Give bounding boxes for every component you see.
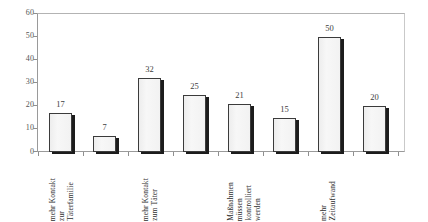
bar-value-7: 20 [370, 93, 379, 102]
y-axis: 60 50 40 30 20 10 0 [0, 0, 34, 222]
bar-body-2[interactable] [138, 78, 161, 152]
bar-body-5[interactable] [273, 118, 296, 153]
bar-body-0[interactable] [49, 113, 72, 152]
x-axis-label-4-line-1: müssen [235, 198, 244, 221]
bar-value-2: 32 [145, 65, 154, 74]
bar-value-5: 15 [280, 105, 289, 114]
bar-6: 50 [318, 14, 341, 152]
x-axis-label-6-line-0: mehr [319, 205, 328, 221]
x-tick-mark-3 [173, 152, 174, 156]
bar-5: 15 [273, 14, 296, 152]
bar-body-4[interactable] [228, 104, 251, 152]
bar-3: 25 [183, 14, 206, 152]
y-tick-label-0: 0 [4, 148, 34, 156]
x-axis-label-4-line-3: werden [253, 198, 262, 221]
x-axis-label-4: Maßnahmen müssen kontrolliert werden [224, 157, 264, 221]
x-axis-label-2-line-1: zum Täter [150, 189, 159, 221]
plot-area: 17 7 32 25 21 15 [38, 14, 404, 152]
bar-body-3[interactable] [183, 95, 206, 153]
x-axis-label-0-line-0: mehr Kontakt [48, 178, 57, 221]
bar-value-1: 7 [102, 123, 106, 132]
x-tick-mark-2 [128, 152, 129, 156]
x-axis-label-0: mehr Kontakt zur Täterfamilie [46, 157, 76, 221]
y-tick-label-20: 20 [4, 101, 34, 109]
x-axis-label-0-line-2: Täterfamilie [66, 182, 75, 221]
bar-chart: 60 50 40 30 20 10 0 17 7 32 [0, 0, 428, 222]
y-tick-label-10: 10 [4, 124, 34, 132]
x-tick-mark-4 [218, 152, 219, 156]
x-axis-label-4-line-2: kontrolliert [244, 185, 253, 221]
x-tick-mark-6 [308, 152, 309, 156]
x-tick-mark-7 [353, 152, 354, 156]
x-axis-label-0-line-1: zur [57, 211, 66, 221]
y-tick-label-40: 40 [4, 55, 34, 63]
x-tick-mark-1 [83, 152, 84, 156]
x-axis-label-6: mehr Zeitaufwand [316, 157, 340, 221]
bar-value-0: 17 [56, 100, 65, 109]
x-axis-label-2: mehr Kontakt zum Täter [138, 157, 162, 221]
bar-body-1[interactable] [93, 136, 116, 152]
bar-body-7[interactable] [363, 106, 386, 152]
y-tick-label-50: 50 [4, 32, 34, 40]
bar-2: 32 [138, 14, 161, 152]
x-axis-label-2-line-0: mehr Kontakt [141, 178, 150, 221]
bar-0: 17 [49, 14, 72, 152]
bar-value-3: 25 [190, 82, 199, 91]
x-axis-label-4-line-0: Maßnahmen [226, 182, 235, 221]
y-tick-label-30: 30 [4, 78, 34, 86]
x-axis-label-6-line-1: Zeitaufwand [328, 181, 337, 221]
bar-4: 21 [228, 14, 251, 152]
bar-7: 20 [363, 14, 386, 152]
bar-body-6[interactable] [318, 37, 341, 152]
x-tick-mark-8 [398, 152, 399, 156]
x-axis-labels: mehr Kontakt zur Täterfamilie mehr Konta… [38, 157, 404, 222]
x-tick-mark-5 [263, 152, 264, 156]
bar-1: 7 [93, 14, 116, 152]
y-tick-label-60: 60 [4, 9, 34, 17]
x-tick-mark-0 [38, 152, 39, 156]
bar-value-4: 21 [235, 91, 244, 100]
bar-value-6: 50 [325, 24, 334, 33]
